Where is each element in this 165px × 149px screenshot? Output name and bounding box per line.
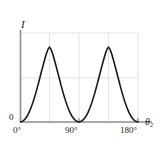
x-tick-label-0: 0° — [13, 126, 21, 135]
x-axis-label: θ2 — [145, 117, 153, 129]
x-tick-label-180: 180° — [120, 126, 137, 135]
y-axis-label: I — [21, 19, 25, 30]
x-tick-label-90: 90° — [65, 126, 78, 135]
figure-container: I θ2 0 0° 90° 180° — [0, 0, 165, 149]
x-axis-label-subscript: 2 — [150, 121, 153, 128]
y-tick-label-0: 0 — [9, 113, 14, 122]
